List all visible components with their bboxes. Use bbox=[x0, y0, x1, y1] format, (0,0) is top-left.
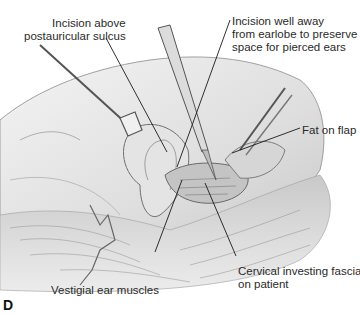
label-fat-on-flap: Fat on flap bbox=[302, 124, 356, 137]
label-incision-away-earlobe: Incision well away from earlobe to prese… bbox=[232, 15, 357, 54]
label-incision-above-sulcus: Incision above postauricular sulcus bbox=[24, 17, 126, 43]
label-vestigial-ear-muscles: Vestigial ear muscles bbox=[51, 284, 159, 297]
label-cervical-investing-fascia: Cervical investing fascia on patient bbox=[238, 265, 360, 291]
surgical-illustration-figure: Incision above postauricular sulcus Inci… bbox=[0, 0, 360, 317]
panel-letter: D bbox=[3, 297, 13, 313]
